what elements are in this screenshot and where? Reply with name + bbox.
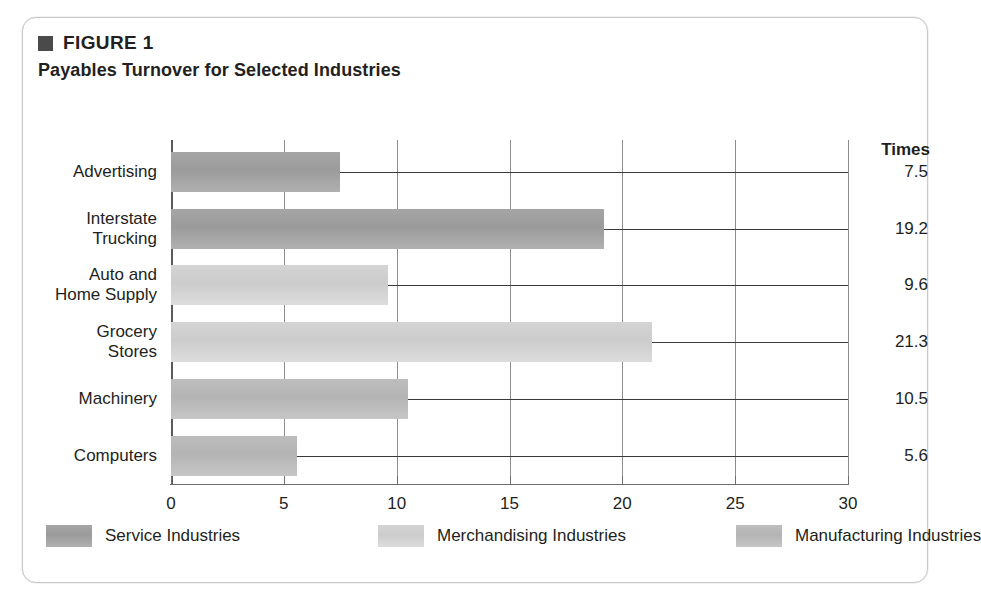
legend-swatch-icon [46,525,92,547]
legend-label: Manufacturing Industries [795,526,981,546]
category-label: Advertising [20,162,157,182]
legend-item[interactable]: Manufacturing Industries [736,525,981,547]
category-label: Interstate Trucking [20,209,157,249]
times-column-header: Times [866,140,930,160]
x-tick-mark [510,476,511,484]
legend-item[interactable]: Service Industries [46,525,240,547]
x-tick-mark [622,476,623,484]
bar [171,209,604,249]
x-tick-mark [848,476,849,484]
x-tick-mark [284,476,285,484]
gridline [510,140,511,484]
category-label: Auto and Home Supply [20,265,157,305]
x-tick-label: 20 [602,494,642,514]
x-tick-label: 25 [715,494,755,514]
leader-line [652,342,848,343]
x-tick-label: 30 [828,494,868,514]
legend-label: Service Industries [105,526,240,546]
bar [171,152,340,192]
category-label: Computers [20,446,157,466]
x-tick-mark [397,476,398,484]
x-tick-label: 10 [377,494,417,514]
axis-baseline [170,484,849,485]
category-label: Grocery Stores [20,322,157,362]
bar [171,379,408,419]
value-label: 7.5 [870,162,928,182]
bar [171,265,388,305]
x-tick-label: 15 [490,494,530,514]
leader-line [340,172,848,173]
legend-swatch-icon [378,525,424,547]
value-label: 10.5 [870,389,928,409]
value-label: 5.6 [870,446,928,466]
gridline [397,140,398,484]
gridline [848,140,849,484]
bar [171,322,652,362]
x-tick-mark [735,476,736,484]
x-tick-label: 5 [264,494,304,514]
gridline [735,140,736,484]
x-tick-label: 0 [151,494,191,514]
value-label: 9.6 [870,275,928,295]
leader-line [604,229,848,230]
value-label: 21.3 [870,332,928,352]
leader-line [408,399,848,400]
bar [171,436,297,476]
legend-label: Merchandising Industries [437,526,626,546]
legend-item[interactable]: Merchandising Industries [378,525,626,547]
category-label: Machinery [20,389,157,409]
legend-swatch-icon [736,525,782,547]
gridline [622,140,623,484]
value-label: 19.2 [870,219,928,239]
leader-line [297,456,848,457]
x-tick-mark [171,476,172,484]
leader-line [388,285,848,286]
